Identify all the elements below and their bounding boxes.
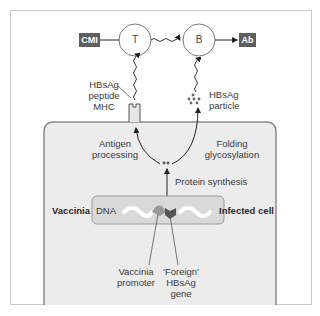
cmi-box: CMI [79, 33, 100, 47]
hbsag-peptide-mhc-label: HBsAg peptide MHC [84, 79, 124, 112]
diagram-graphics [0, 0, 320, 316]
vaccinia-promoter-label: Vaccinia promoter [113, 266, 159, 288]
protein-synthesis-label: Protein synthesis [175, 176, 247, 187]
mhc-receptor-icon [129, 104, 140, 122]
vaccinia-label: Vaccinia [52, 205, 90, 216]
b-cell-label: B [189, 34, 209, 45]
ab-box: Ab [239, 33, 256, 47]
antigen-processing-label: Antigen processing [90, 138, 140, 160]
foreign-gene-label: 'Foreign' HBsAg gene [163, 266, 199, 299]
dna-label: DNA [96, 205, 116, 216]
hbsag-particle-icon [188, 94, 201, 105]
t-cell-label: T [125, 34, 145, 45]
infected-cell-label: Infected cell [219, 205, 274, 216]
folding-glycosylation-label: Folding glycosylation [202, 138, 262, 160]
hbsag-particle-label: HBsAg particle [209, 89, 240, 111]
